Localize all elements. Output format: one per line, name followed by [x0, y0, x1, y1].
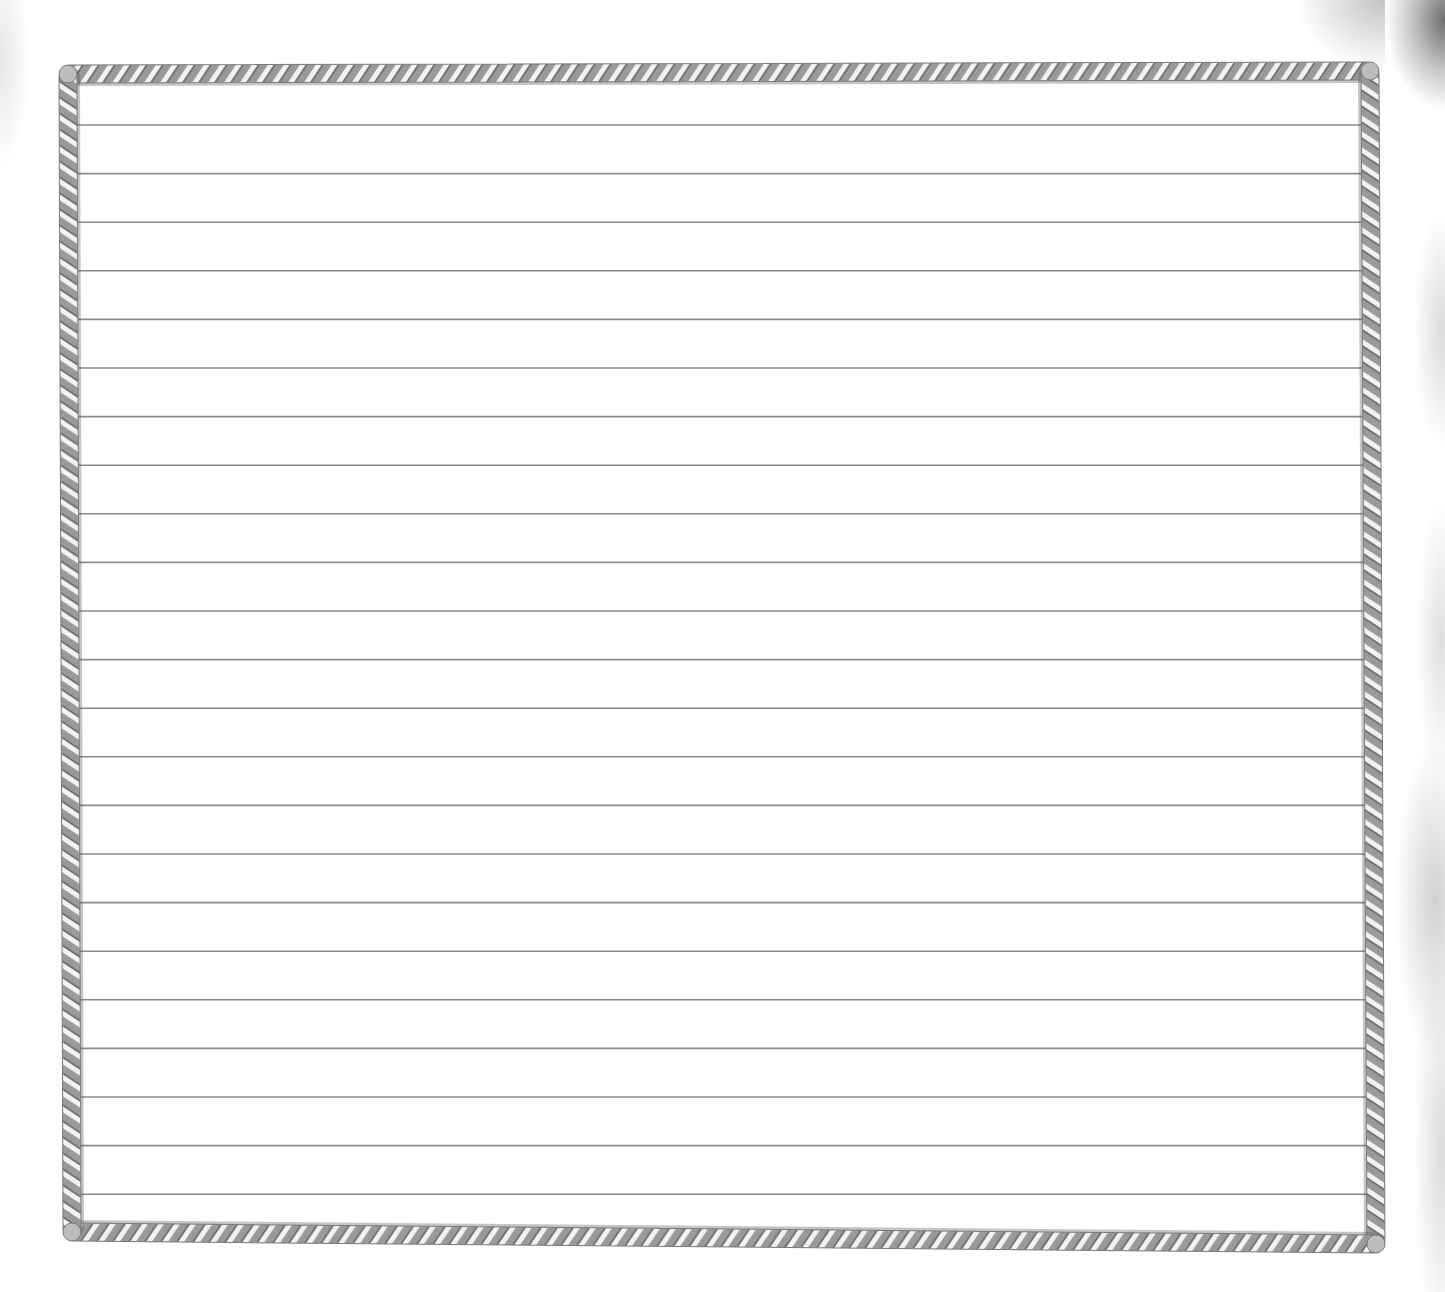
ruled-lines	[77, 125, 1372, 1194]
rope-segment	[59, 67, 84, 1238]
rope-segment	[65, 1220, 1382, 1253]
rope-corner	[59, 65, 77, 83]
lined-paper-page	[0, 0, 1445, 1292]
rope-corner	[63, 1223, 81, 1241]
rope-corner	[1361, 62, 1379, 80]
rope-frame	[0, 0, 1445, 1292]
rope-corner	[1367, 1235, 1385, 1253]
rope-segment	[62, 62, 1377, 86]
rope-segment	[1358, 65, 1385, 1251]
rope-border	[59, 62, 1385, 1253]
